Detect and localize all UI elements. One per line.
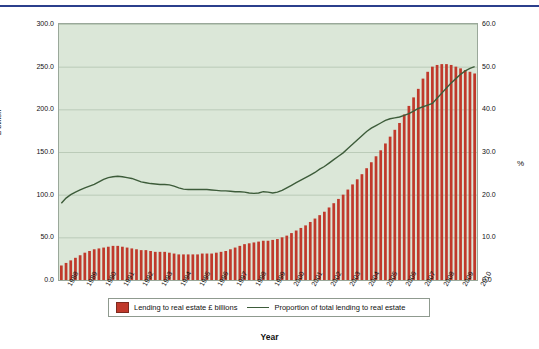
bar bbox=[154, 252, 157, 280]
bar bbox=[440, 64, 443, 280]
bar bbox=[121, 247, 124, 280]
bar bbox=[459, 68, 462, 280]
bar bbox=[356, 179, 359, 280]
bar bbox=[328, 207, 331, 280]
y-tick-left: 100.0 bbox=[24, 191, 54, 198]
bar bbox=[450, 65, 453, 280]
bar bbox=[431, 67, 434, 280]
y-tick-right: 60.0 bbox=[482, 20, 512, 27]
bar bbox=[177, 254, 180, 280]
y-tick-left: 150.0 bbox=[24, 148, 54, 155]
bar bbox=[290, 233, 293, 280]
y-tick-left: 250.0 bbox=[24, 63, 54, 70]
bar bbox=[351, 184, 354, 280]
bar bbox=[398, 123, 401, 280]
bar bbox=[196, 254, 199, 280]
y-tick-right: 50.0 bbox=[482, 63, 512, 70]
bar bbox=[473, 73, 476, 280]
bar bbox=[229, 249, 232, 280]
bar bbox=[271, 240, 274, 280]
bar bbox=[455, 67, 458, 280]
bar bbox=[98, 248, 101, 280]
y-tick-left: 0.0 bbox=[24, 276, 54, 283]
bar bbox=[393, 130, 396, 280]
chart-container: £ billion % 0.050.0100.0150.0200.0250.03… bbox=[0, 7, 539, 349]
bar bbox=[426, 72, 429, 280]
y-tick-right: 10.0 bbox=[482, 233, 512, 240]
y-axis-title-left: £ billion bbox=[0, 110, 3, 135]
bar bbox=[412, 97, 415, 280]
legend-item-line: Proportion of total lending to real esta… bbox=[247, 303, 405, 312]
bar bbox=[361, 174, 364, 280]
bar bbox=[337, 199, 340, 280]
y-tick-right: 40.0 bbox=[482, 105, 512, 112]
bar bbox=[60, 265, 63, 280]
bar bbox=[342, 195, 345, 280]
bar bbox=[215, 253, 218, 280]
bar bbox=[173, 254, 176, 280]
x-axis-title: Year bbox=[0, 332, 539, 342]
bar bbox=[417, 89, 420, 280]
y-tick-left: 50.0 bbox=[24, 233, 54, 240]
legend-item-bars: Lending to real estate £ billions bbox=[116, 302, 237, 313]
bar bbox=[365, 168, 368, 280]
bar bbox=[191, 254, 194, 280]
bar bbox=[445, 64, 448, 280]
bar bbox=[102, 248, 105, 280]
bar bbox=[248, 243, 251, 280]
bar bbox=[140, 250, 143, 280]
bar bbox=[464, 70, 467, 280]
legend-label-bars: Lending to real estate £ billions bbox=[134, 303, 237, 312]
bar bbox=[375, 156, 378, 280]
y-axis-title-right: % bbox=[517, 159, 524, 168]
bar bbox=[379, 150, 382, 280]
y-tick-left: 200.0 bbox=[24, 105, 54, 112]
bar bbox=[346, 190, 349, 280]
bar bbox=[403, 114, 406, 280]
bar bbox=[210, 254, 213, 280]
bar bbox=[332, 203, 335, 280]
line-swatch-icon bbox=[247, 307, 269, 308]
y-tick-right: 20.0 bbox=[482, 191, 512, 198]
bar-swatch-icon bbox=[116, 302, 129, 313]
bar bbox=[323, 212, 326, 280]
bar bbox=[135, 249, 138, 280]
bar bbox=[65, 263, 68, 280]
y-tick-left: 300.0 bbox=[24, 20, 54, 27]
bar bbox=[79, 255, 82, 280]
bar bbox=[83, 253, 86, 280]
bar bbox=[159, 252, 162, 280]
chart-svg bbox=[59, 24, 477, 280]
legend-label-line: Proportion of total lending to real esta… bbox=[274, 303, 405, 312]
plot-area bbox=[58, 23, 478, 281]
bar bbox=[389, 137, 392, 280]
bar bbox=[422, 79, 425, 280]
bar bbox=[384, 143, 387, 280]
bar bbox=[234, 248, 237, 280]
y-tick-right: 30.0 bbox=[482, 148, 512, 155]
chart-legend: Lending to real estate £ billions Propor… bbox=[108, 298, 430, 317]
bar bbox=[309, 222, 312, 280]
bar bbox=[370, 162, 373, 280]
bar bbox=[469, 72, 472, 280]
bar bbox=[253, 242, 256, 280]
bar bbox=[408, 106, 411, 280]
